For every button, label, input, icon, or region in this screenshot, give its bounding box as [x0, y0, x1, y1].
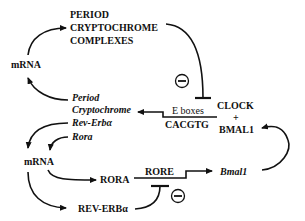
arrow-mrna-to-complex	[28, 28, 66, 55]
arrow-bmal1-loop	[262, 127, 289, 171]
arrow-genes-to-mrna	[28, 78, 68, 100]
label-cacgtg: CACGTG	[165, 119, 209, 131]
label-mrna-top: mRNA	[11, 59, 41, 71]
label-rore: RORE	[145, 166, 174, 178]
label-cryptochrome: CRYPTOCHROME	[70, 22, 158, 34]
label-rev-erb-gene: Rev-Erbα	[72, 117, 112, 129]
arrow-reverb-to-mrna	[28, 123, 68, 148]
arrow-mrna-to-reverb	[28, 172, 66, 208]
circadian-diagram: PERIOD CRYPTOCHROME COMPLEXES mRNA Perio…	[0, 0, 305, 221]
label-complexes: COMPLEXES	[70, 35, 133, 47]
label-clock: CLOCK	[217, 100, 254, 112]
label-cryptochrome-gene: Cryptochrome	[72, 104, 131, 116]
label-bmal1-protein: BMAL1	[219, 124, 254, 136]
label-rev-erb-protein: REV-ERBα	[78, 203, 128, 215]
label-rora-gene: Rora	[72, 131, 93, 143]
label-bmal1-gene: Bmal1	[220, 166, 247, 178]
label-period-gene: Period	[72, 92, 99, 104]
label-rora-protein: RORA	[100, 174, 129, 186]
arrow-rora-to-mrna	[50, 137, 68, 150]
label-e-boxes: E boxes	[172, 105, 204, 117]
label-plus: +	[233, 112, 239, 124]
label-period: PERIOD	[70, 9, 109, 21]
inhibition-reverb-to-rore	[135, 186, 160, 209]
label-mrna-bottom: mRNA	[24, 156, 54, 168]
arrow-mrna-to-rora	[48, 170, 96, 180]
